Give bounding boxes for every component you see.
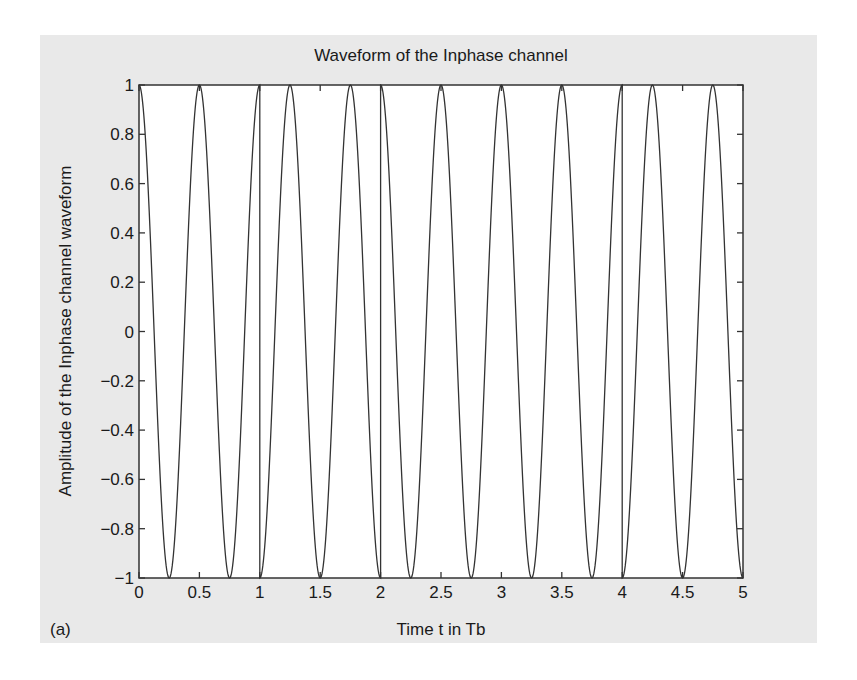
y-tick-label: 0.6 bbox=[110, 175, 134, 194]
x-tick-label: 2.5 bbox=[429, 583, 453, 602]
chart-title: Waveform of the Inphase channel bbox=[139, 46, 743, 66]
y-tick-label: 0.2 bbox=[110, 273, 134, 292]
y-tick-label: 0.8 bbox=[110, 125, 134, 144]
y-tick-label: 0 bbox=[125, 323, 134, 342]
x-tick-label: 0.5 bbox=[188, 583, 212, 602]
x-tick-label: 3.5 bbox=[550, 583, 574, 602]
x-tick-label: 3 bbox=[497, 583, 506, 602]
x-tick-label: 1.5 bbox=[308, 583, 332, 602]
y-tick-label: 1 bbox=[125, 76, 134, 95]
x-tick-label: 1 bbox=[255, 583, 264, 602]
x-tick-label: 2 bbox=[376, 583, 385, 602]
axes-background bbox=[139, 85, 743, 578]
y-axis-label: Amplitude of the Inphase channel wavefor… bbox=[56, 166, 76, 497]
plot-area: 00.511.522.533.544.55 −1−0.8−0.6−0.4−0.2… bbox=[0, 0, 857, 680]
x-tick-label: 4 bbox=[617, 583, 626, 602]
y-tick-label: 0.4 bbox=[110, 224, 134, 243]
y-tick-label: −1 bbox=[115, 569, 134, 588]
panel-label: (a) bbox=[50, 620, 71, 640]
y-tick-label: −0.2 bbox=[100, 372, 134, 391]
y-tick-label: −0.8 bbox=[100, 520, 134, 539]
x-tick-label: 4.5 bbox=[671, 583, 695, 602]
x-tick-label: 5 bbox=[738, 583, 747, 602]
y-tick-label: −0.4 bbox=[100, 421, 134, 440]
y-tick-label: −0.6 bbox=[100, 470, 134, 489]
x-tick-label: 0 bbox=[134, 583, 143, 602]
x-axis-label: Time t in Tb bbox=[139, 620, 743, 640]
